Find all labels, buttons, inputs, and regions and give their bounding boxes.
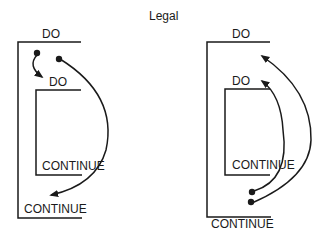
right-jump-origin-dot-1	[249, 189, 255, 195]
left-inner-loop-bracket	[36, 90, 82, 175]
left-jump-origin-dot-1	[34, 50, 40, 56]
right-outer-loop-bracket	[207, 42, 271, 217]
left-jump-origin-dot-2	[56, 56, 62, 62]
diagram-canvas	[0, 0, 335, 240]
right-inner-loop-bracket	[225, 89, 270, 175]
right-jump-origin-dot-2	[248, 199, 254, 205]
left-arrow-to-inner-do	[33, 55, 42, 77]
right-arrow-to-outer-top	[252, 56, 311, 203]
